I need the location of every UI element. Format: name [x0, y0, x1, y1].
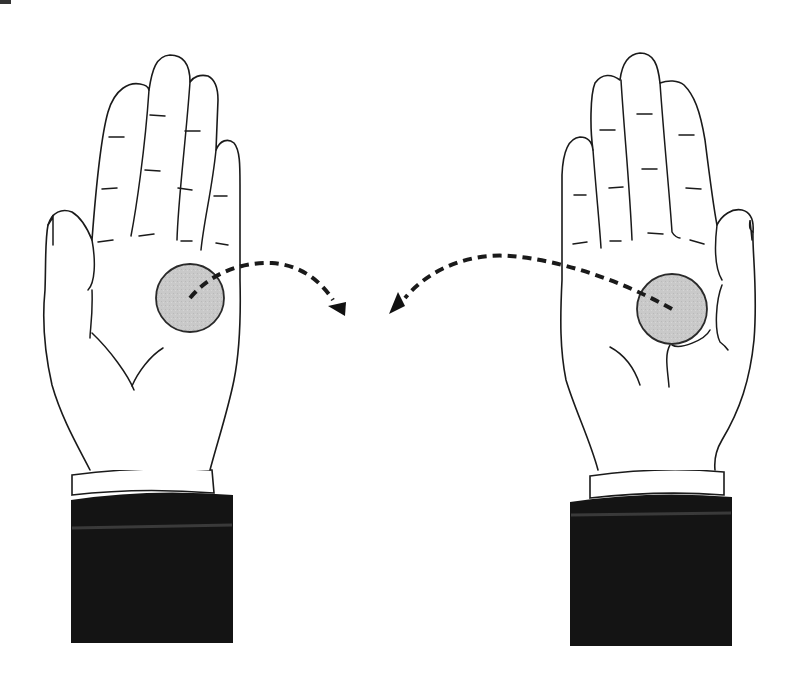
right-arrowhead-icon — [389, 292, 405, 314]
left-sleeve — [71, 492, 233, 643]
right-sleeve — [570, 494, 732, 646]
left-hand — [44, 55, 241, 643]
left-arrowhead-icon — [328, 302, 346, 316]
palms-coin-illustration — [0, 0, 791, 677]
left-cuff — [72, 469, 214, 495]
right-hand — [561, 53, 756, 646]
right-hand-outline — [561, 53, 756, 470]
left-hand-outline — [44, 55, 241, 470]
right-cuff — [590, 470, 724, 498]
